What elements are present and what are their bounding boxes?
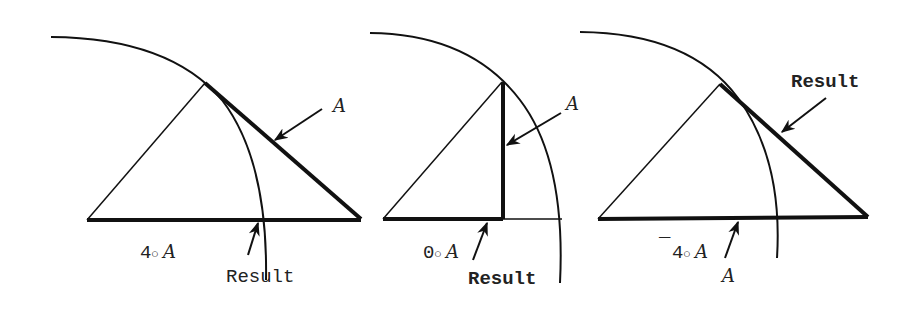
- expression-label: 0 ○ A: [423, 241, 459, 264]
- arrow-to-base: [473, 223, 487, 260]
- label-lower: Result: [468, 268, 536, 290]
- expression-label: ¯ 4 ○ A: [658, 236, 708, 264]
- radius-line: [87, 83, 205, 220]
- panel-3: Result A ¯ 4 ○ A: [580, 32, 868, 286]
- label-lower: A: [720, 265, 735, 286]
- label-upper: A: [331, 95, 346, 116]
- arrow-to-base: [248, 223, 258, 255]
- svg-text:○: ○: [151, 247, 159, 262]
- svg-text:0: 0: [423, 242, 434, 264]
- svg-text:4: 4: [140, 242, 151, 264]
- radius-line: [383, 82, 502, 219]
- svg-text:4: 4: [672, 242, 683, 264]
- unit-circle-arc: [580, 32, 778, 258]
- label-upper: A: [564, 93, 579, 114]
- arrow-to-tangent: [782, 98, 826, 132]
- panel-1: A Result 4 ○ A: [51, 37, 361, 288]
- arrow-to-tangent: [275, 109, 322, 140]
- tangent-segment: [720, 84, 868, 217]
- radius-line: [598, 84, 720, 219]
- unit-circle-arc: [370, 33, 561, 283]
- base-line: [598, 217, 868, 219]
- svg-text:○: ○: [683, 247, 691, 262]
- svg-text:A: A: [444, 241, 459, 262]
- circle-function-diagram: A Result 4 ○ A A Result 0 ○ A Result: [0, 0, 916, 311]
- arrow-to-base: [725, 222, 738, 258]
- panel-2: A Result 0 ○ A: [370, 33, 579, 290]
- svg-text:○: ○: [434, 247, 442, 262]
- svg-text:A: A: [693, 241, 708, 262]
- svg-text:¯: ¯: [658, 236, 671, 258]
- svg-text:A: A: [161, 241, 176, 262]
- label-upper: Result: [791, 71, 859, 93]
- arrow-to-vertical: [507, 113, 561, 145]
- expression-label: 4 ○ A: [140, 241, 176, 264]
- unit-circle-arc: [51, 37, 266, 280]
- label-lower: Result: [226, 266, 294, 288]
